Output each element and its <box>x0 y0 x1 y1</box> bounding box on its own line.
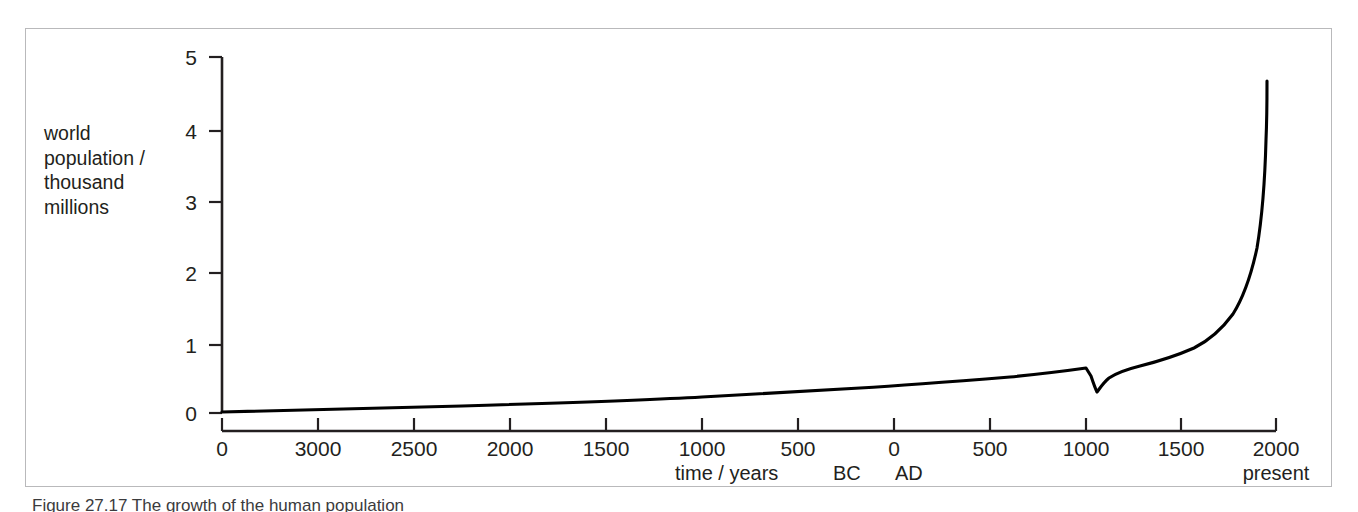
x-tick-label: 2500 <box>391 437 438 460</box>
x-axis-annotations: time / years BC AD present <box>675 462 1310 484</box>
y-tick-label: 4 <box>185 120 197 143</box>
x-tick-label: 2000 <box>487 437 534 460</box>
x-tick-label: 500 <box>780 437 815 460</box>
y-tick-label: 5 <box>185 46 197 69</box>
x-tick-label: 1000 <box>1063 437 1110 460</box>
x-tick-label: 0 <box>216 437 228 460</box>
population-curve <box>222 81 1267 412</box>
y-tick-label: 0 <box>185 402 197 425</box>
y-tick-label: 1 <box>185 334 197 357</box>
x-tick-label: 1500 <box>1158 437 1205 460</box>
x-tick-label: 2000 <box>1253 437 1300 460</box>
x-tick-label: 1500 <box>583 437 630 460</box>
x-axis-title: time / years <box>675 462 778 484</box>
population-chart: 5 4 3 2 1 0 0 3000 2500 <box>0 0 1358 512</box>
x-tick-label: 1000 <box>679 437 726 460</box>
x-tick-label: 0 <box>888 437 900 460</box>
figure-root: world population / thousand millions 5 4… <box>0 0 1358 512</box>
y-tick-label: 3 <box>185 191 197 214</box>
era-label-bc: BC <box>833 462 861 484</box>
y-tick-label: 2 <box>185 262 197 285</box>
x-tick-label: 3000 <box>295 437 342 460</box>
x-axis-ticks <box>222 418 1276 431</box>
x-tick-labels: 0 3000 2500 2000 1500 1000 500 0 500 100… <box>216 437 1299 460</box>
y-axis-ticks <box>209 57 222 413</box>
y-tick-labels: 5 4 3 2 1 0 <box>185 46 197 425</box>
x-tick-label: 500 <box>972 437 1007 460</box>
present-label: present <box>1243 462 1310 484</box>
figure-caption: Figure 27.17 The growth of the human pop… <box>32 496 932 512</box>
era-label-ad: AD <box>895 462 923 484</box>
